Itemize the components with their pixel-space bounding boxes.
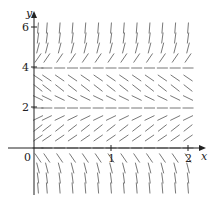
slope-segment (170, 116, 180, 121)
slope-segment (183, 116, 193, 121)
slope-segment (121, 153, 127, 162)
slope-segment (145, 96, 155, 101)
slope-segment (42, 116, 52, 121)
slope-segment (188, 23, 189, 34)
slope-segment (81, 125, 90, 132)
slope-segment (123, 33, 124, 44)
slope-segment (94, 75, 103, 81)
slope-segment (119, 75, 128, 81)
slope-segment (55, 116, 65, 121)
slope-segment (46, 183, 47, 194)
slope-segment (132, 96, 142, 101)
slope-segment (84, 163, 87, 174)
slope-segment (38, 183, 39, 194)
slope-segment (59, 33, 60, 44)
slope-segment (44, 153, 50, 162)
slope-segment (159, 53, 165, 62)
slope-segment (170, 96, 180, 101)
slope-segment (72, 23, 73, 34)
slope-segment (43, 125, 52, 132)
slope-segment (58, 43, 61, 54)
slope-segment (37, 163, 40, 174)
slope-segment (55, 85, 64, 92)
slope-segment (174, 163, 177, 174)
y-axis: 2 4 6 y 0 (22, 7, 37, 195)
slope-segment (146, 153, 152, 162)
slope-segment (119, 116, 129, 121)
slope-segment (45, 43, 48, 54)
slope-segment (123, 23, 124, 34)
slope-segment (148, 43, 151, 54)
slope-segment (183, 96, 193, 101)
slope-segment (82, 53, 88, 62)
slope-segment (45, 163, 48, 174)
slope-segment (136, 183, 137, 194)
slope-segment (69, 153, 75, 162)
slope-segment (107, 85, 116, 92)
slope-segment (37, 173, 38, 184)
slope-segment (149, 173, 150, 184)
slope-segment (80, 116, 90, 121)
slope-segment (106, 96, 116, 101)
slope-segment (158, 85, 167, 92)
slope-segment (55, 96, 65, 101)
slope-segment (94, 135, 103, 141)
slope-segment (72, 33, 73, 44)
slope-segment (161, 43, 164, 54)
slope-segment (85, 23, 86, 34)
slope-segment (34, 85, 43, 92)
slope-segment (162, 173, 163, 184)
slope-segment (171, 85, 180, 92)
slope-segment (71, 43, 74, 54)
slope-segment (106, 135, 115, 141)
slope-segment (35, 53, 41, 62)
slope-segment (134, 153, 140, 162)
slope-segment (158, 135, 167, 141)
slope-segment (95, 53, 101, 62)
slope-segment (183, 135, 192, 141)
slope-segment (97, 43, 100, 54)
slope-segment (68, 135, 77, 141)
slope-segment (38, 23, 39, 34)
slope-segment (110, 173, 111, 184)
slope-segment (84, 43, 87, 54)
slope-segment (119, 96, 129, 101)
slope-segment (162, 33, 163, 44)
slope-segment (132, 125, 141, 132)
slope-segment (136, 173, 137, 184)
slope-segment (42, 135, 51, 141)
slope-segment (72, 183, 73, 194)
x-axis-label: x (201, 150, 208, 163)
slope-segment (57, 153, 63, 162)
x-tick-label-1: 1 (108, 152, 115, 165)
slope-segment (132, 135, 141, 141)
slope-segment (85, 33, 86, 44)
slope-segment (85, 173, 86, 184)
slope-segment (146, 53, 152, 62)
slope-segment (171, 75, 180, 81)
slope-segment (134, 53, 140, 62)
slope-segment (33, 96, 43, 101)
slope-segment (42, 96, 52, 101)
slope-segment (81, 85, 90, 92)
y-tick-label-6: 6 (22, 21, 29, 34)
slope-segment (120, 85, 129, 92)
slope-segments (33, 23, 194, 194)
slope-segment (171, 135, 180, 141)
slope-segment (111, 183, 112, 194)
slope-segment (132, 116, 142, 121)
slope-segment (68, 96, 78, 101)
slope-segment (68, 116, 78, 121)
slope-segment (58, 163, 61, 174)
slope-segment (106, 75, 115, 81)
slope-segment (157, 96, 167, 101)
slope-segment (59, 183, 60, 194)
slope-segment (111, 23, 112, 34)
slope-segment (94, 125, 103, 132)
slope-segment (122, 43, 125, 54)
slope-segment (135, 163, 138, 174)
slope-segment (132, 85, 141, 92)
slope-segment (184, 85, 193, 92)
slope-segment (172, 53, 178, 62)
slope-segment (132, 75, 141, 81)
